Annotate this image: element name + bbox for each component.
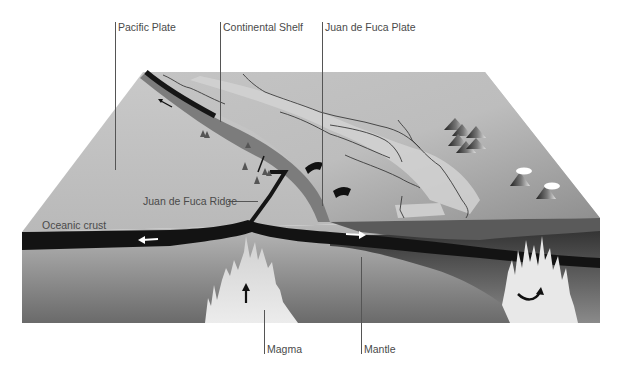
continental-shelf-leader: [220, 22, 221, 122]
mantle-label: Mantle: [364, 343, 396, 355]
juan-de-fuca-ridge-label: Juan de Fuca Ridge: [143, 195, 237, 207]
pacific-plate-leader: [115, 22, 116, 170]
juan-de-fuca-plate-leader: [322, 22, 323, 206]
mantle-leader: [361, 257, 362, 354]
magma-label: Magma: [267, 343, 302, 355]
tectonic-diagram: [0, 0, 619, 372]
magma-leader: [264, 310, 265, 354]
pacific-plate-label: Pacific Plate: [118, 21, 176, 33]
oceanic-crust-label: Oceanic crust: [42, 219, 106, 231]
juan-de-fuca-plate-label: Juan de Fuca Plate: [325, 21, 415, 33]
continental-shelf-label: Continental Shelf: [223, 21, 303, 33]
